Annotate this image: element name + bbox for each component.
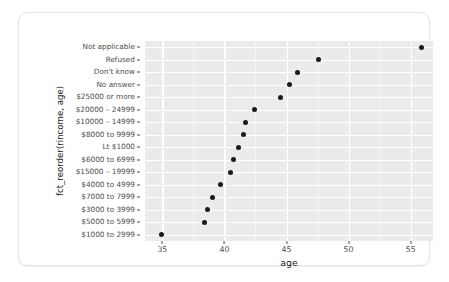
y-axis-tick-label: $8000 to 9999 [81, 131, 135, 138]
data-point [278, 95, 283, 100]
y-axis-tick-label: $4000 to 4999 [81, 181, 135, 188]
data-point [210, 195, 215, 200]
x-axis-tick-mark [286, 241, 287, 244]
data-point [419, 45, 424, 50]
y-axis-tick-label: $20000 – 24999 [76, 106, 135, 113]
y-axis-tick-label: No answer [96, 81, 135, 88]
data-point [295, 70, 300, 75]
gridline-major-horizontal [145, 197, 433, 198]
gridline-major-vertical [411, 41, 412, 241]
data-point [316, 57, 321, 62]
y-axis-tick-label: $6000 to 6999 [81, 156, 135, 163]
y-axis-tick-label: $15000 – 19999 [76, 169, 135, 176]
gridline-minor-vertical [255, 41, 256, 241]
plot-panel [145, 41, 433, 241]
x-axis-tick-mark [410, 241, 411, 244]
gridline-major-vertical [162, 41, 163, 241]
data-point [241, 132, 246, 137]
gridline-major-vertical [287, 41, 288, 241]
data-point [202, 220, 207, 225]
gridline-major-horizontal [145, 60, 433, 61]
data-point [159, 232, 164, 237]
y-axis-tick-label: $25000 or more [76, 94, 135, 101]
gridline-major-vertical [349, 41, 350, 241]
y-axis-title: fct_reorder(rincome, age) [56, 86, 65, 196]
gridline-minor-vertical [380, 41, 381, 241]
x-axis-tick-label: 45 [282, 246, 292, 254]
data-point [218, 182, 223, 187]
gridline-major-horizontal [145, 97, 433, 98]
y-axis-tick-label: $7000 to 7999 [81, 194, 135, 201]
y-axis-tick-label: Refused [106, 56, 135, 63]
y-axis-tick-mark [137, 59, 140, 60]
data-point [287, 82, 292, 87]
gridline-major-horizontal [145, 160, 433, 161]
y-axis-tick-labels: Not applicableRefusedDon't knowNo answer… [67, 41, 141, 241]
y-axis-tick-mark [137, 184, 140, 185]
gridline-major-horizontal [145, 47, 433, 48]
data-point [205, 207, 210, 212]
y-axis-tick-label: Not applicable [82, 44, 135, 51]
data-point [236, 145, 241, 150]
data-point [228, 170, 233, 175]
gridline-major-horizontal [145, 122, 433, 123]
gridline-minor-vertical [318, 41, 319, 241]
gridline-major-horizontal [145, 235, 433, 236]
gridline-major-horizontal [145, 210, 433, 211]
gridline-major-horizontal [145, 110, 433, 111]
y-axis-tick-label: $10000 – 14999 [76, 119, 135, 126]
y-axis-tick-mark [137, 159, 140, 160]
gridline-major-horizontal [145, 172, 433, 173]
x-axis-tick-mark [348, 241, 349, 244]
y-axis-tick-mark [137, 47, 140, 48]
y-axis-tick-label: $5000 to 5999 [81, 219, 135, 226]
y-axis-tick-mark [137, 147, 140, 148]
gridline-major-horizontal [145, 135, 433, 136]
y-axis-tick-mark [137, 122, 140, 123]
gridline-major-vertical [224, 41, 225, 241]
gridline-major-horizontal [145, 72, 433, 73]
x-axis-tick-mark [224, 241, 225, 244]
chart-screenshot: Not applicableRefusedDon't knowNo answer… [0, 0, 449, 282]
x-axis-tick-label: 55 [406, 246, 416, 254]
y-axis-tick-label: $1000 to 2999 [81, 231, 135, 238]
y-axis-tick-mark [137, 234, 140, 235]
y-axis-tick-mark [137, 97, 140, 98]
x-axis-tick-label: 50 [344, 246, 354, 254]
y-axis-tick-mark [137, 84, 140, 85]
gridline-major-horizontal [145, 222, 433, 223]
y-axis-tick-mark [137, 197, 140, 198]
y-axis-tick-label: Don't know [94, 69, 135, 76]
gridline-major-horizontal [145, 185, 433, 186]
y-axis-title-wrapper: fct_reorder(rincome, age) [53, 41, 67, 241]
y-axis-tick-mark [137, 134, 140, 135]
data-point [243, 120, 248, 125]
x-axis-title: age [145, 258, 433, 267]
x-axis-tick-label: 40 [219, 246, 229, 254]
y-axis-tick-mark [137, 72, 140, 73]
data-point [252, 107, 257, 112]
y-axis-tick-mark [137, 172, 140, 173]
gridline-minor-vertical [193, 41, 194, 241]
data-point [231, 157, 236, 162]
x-axis-tick-label: 35 [157, 246, 167, 254]
y-axis-tick-mark [137, 109, 140, 110]
gridline-major-horizontal [145, 147, 433, 148]
x-axis-tick-mark [162, 241, 163, 244]
plot-card: Not applicableRefusedDon't knowNo answer… [18, 12, 430, 266]
y-axis-tick-mark [137, 209, 140, 210]
y-axis-tick-mark [137, 222, 140, 223]
y-axis-tick-label: $3000 to 3999 [81, 206, 135, 213]
y-axis-tick-label: Lt $1000 [103, 144, 135, 151]
